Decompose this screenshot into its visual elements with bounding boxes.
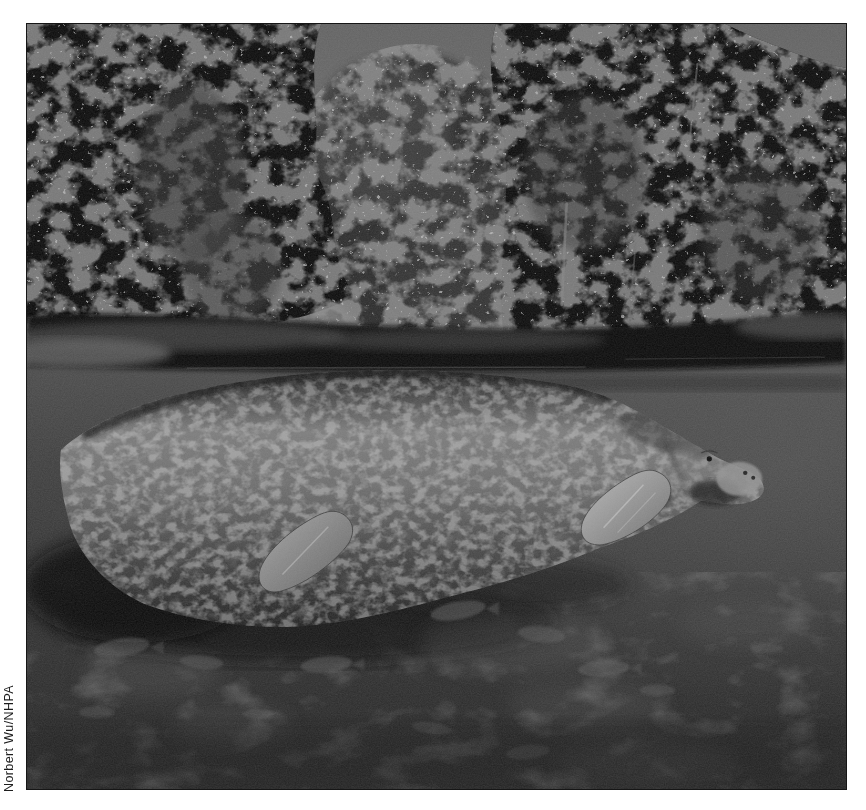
- film-grain-overlay: [27, 24, 846, 789]
- photo-canvas: [27, 24, 846, 789]
- book-page: Norbert Wu/NHPA: [0, 0, 866, 810]
- photo-credit: Norbert Wu/NHPA: [3, 664, 21, 792]
- manatee-photograph: [26, 23, 847, 790]
